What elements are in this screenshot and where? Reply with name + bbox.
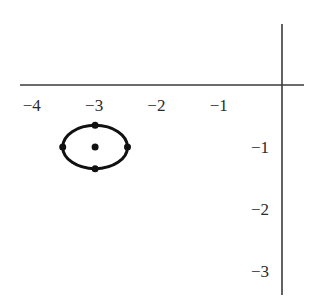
center-point: [92, 144, 99, 151]
left-vertex-point: [59, 144, 66, 151]
coordinate-plane: −4 −3 −2 −1 −1 −2 −3: [0, 0, 315, 308]
y-tick-label: −2: [251, 201, 269, 218]
ellipse-points: [59, 122, 131, 172]
x-tick-label: −1: [210, 97, 228, 114]
right-vertex-point: [124, 144, 131, 151]
bottom-covertex-point: [92, 165, 99, 172]
y-tick-label: −3: [251, 263, 269, 280]
x-tick-label: −2: [147, 97, 165, 114]
x-tick-label: −4: [23, 97, 41, 114]
top-covertex-point: [92, 122, 99, 129]
x-tick-label: −3: [85, 97, 103, 114]
y-tick-label: −1: [251, 139, 269, 156]
